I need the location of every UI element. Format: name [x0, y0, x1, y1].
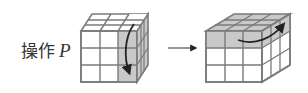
- cube-after: [206, 14, 290, 82]
- cube-operation-diagram: [0, 0, 308, 93]
- cube-before: [81, 14, 148, 82]
